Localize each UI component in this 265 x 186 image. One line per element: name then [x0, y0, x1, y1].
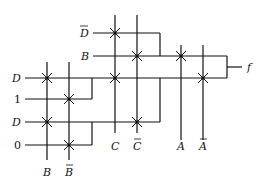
- label-b: B: [80, 50, 89, 63]
- label-sel-cbar: C: [133, 140, 142, 153]
- mux-tree-diagram: D B D 1 D 0 B B C C A A f: [0, 0, 265, 186]
- label-d-2: D: [11, 116, 21, 129]
- label-sel-a: A: [176, 140, 185, 153]
- label-sel-bbar: B: [64, 166, 73, 179]
- label-0: 0: [14, 139, 21, 152]
- label-sel-c: C: [111, 140, 120, 153]
- label-sel-b: B: [42, 166, 51, 179]
- label-d-bar: D: [79, 27, 89, 40]
- label-output-f: f: [246, 61, 253, 74]
- label-sel-abar: A: [198, 140, 207, 153]
- label-d-1: D: [11, 72, 21, 85]
- label-1: 1: [14, 93, 21, 106]
- crosspoints: [42, 28, 208, 150]
- wires: [25, 15, 242, 160]
